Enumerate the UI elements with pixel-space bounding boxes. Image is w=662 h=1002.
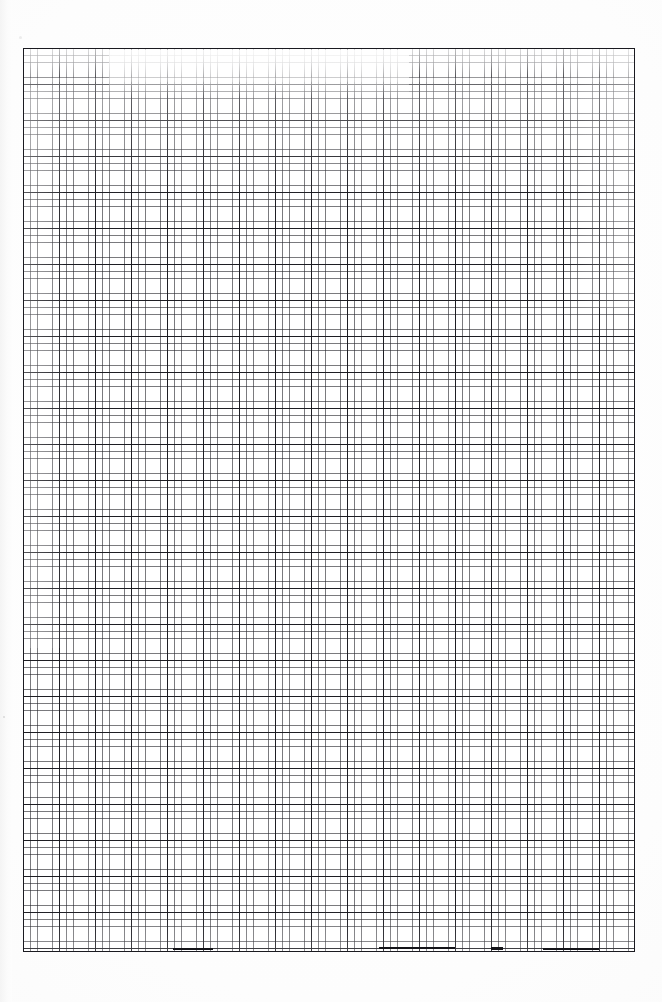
dust-speck-left-margin bbox=[3, 716, 5, 718]
document-caption: Blank quadrille / graph paper sheet, sca… bbox=[0, 0, 1, 1]
ink-bleed-segment-center bbox=[379, 947, 455, 949]
dust-speck-corner bbox=[19, 36, 22, 39]
graph-paper-sheet bbox=[23, 48, 635, 952]
sheet-border bbox=[23, 48, 635, 952]
page-canvas: Blank quadrille / graph paper sheet, sca… bbox=[0, 0, 662, 1002]
scan-fade-upper-wash bbox=[23, 78, 635, 198]
ink-bleed-segment-left bbox=[173, 948, 213, 950]
scan-fade-bottom-band bbox=[23, 908, 635, 952]
scan-fade-left-column bbox=[23, 88, 63, 648]
ink-bleed-segment-right bbox=[543, 948, 599, 950]
scan-fade-top-band bbox=[23, 48, 635, 82]
scan-fade-right-column bbox=[563, 48, 635, 308]
scan-left-edge-shadow bbox=[0, 0, 12, 1002]
minor-gridlines bbox=[23, 48, 635, 952]
scan-fade-top-patch bbox=[109, 50, 409, 98]
ink-bleed-tick-center-right bbox=[491, 947, 503, 950]
major-gridlines bbox=[23, 48, 635, 952]
